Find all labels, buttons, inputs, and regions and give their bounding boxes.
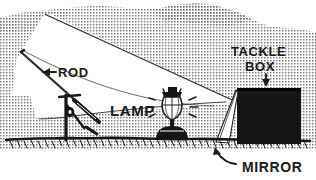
- illustration-canvas: ROD LAMP TACKLE BOX MIRROR: [0, 0, 316, 180]
- lantern-finial: [168, 87, 177, 92]
- rod-label-text: ROD: [58, 65, 89, 80]
- mirror-label-text: MIRROR: [242, 159, 302, 175]
- tackle-box-label-line1: TACKLE: [231, 44, 286, 59]
- tackle-box-lid-edge: [237, 88, 301, 91]
- ground-shadow-left: [0, 95, 36, 122]
- scene-svg: ROD LAMP TACKLE BOX MIRROR: [0, 0, 316, 180]
- reel-center: [68, 110, 71, 114]
- tackle-box-label-line2: BOX: [245, 59, 275, 74]
- fishing-rod-tip: [21, 50, 24, 52]
- tackle-box: [237, 88, 301, 144]
- lamp-label-text: LAMP: [110, 102, 155, 119]
